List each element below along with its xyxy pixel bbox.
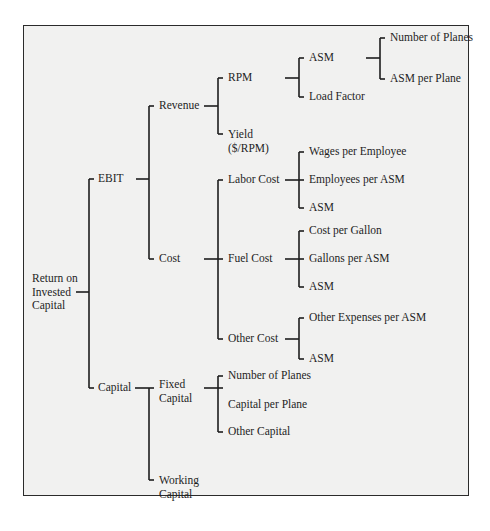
root-line-2: Invested xyxy=(32,285,78,299)
node-capital-per-plane: Capital per Plane xyxy=(228,398,307,412)
node-cost-per-gallon: Cost per Gallon xyxy=(309,224,382,238)
node-load-factor: Load Factor xyxy=(309,90,365,104)
node-number-of-planes-capital: Number of Planes xyxy=(228,369,311,383)
node-labor-cost: Labor Cost xyxy=(228,173,279,187)
node-gallons-per-asm: Gallons per ASM xyxy=(309,252,390,266)
node-revenue: Revenue xyxy=(159,99,199,113)
node-capital: Capital xyxy=(98,381,131,395)
node-return-on-invested-capital: Return on Invested Capital xyxy=(32,272,78,313)
yield-line-1: Yield xyxy=(228,128,269,142)
working-capital-line-2: Capital xyxy=(159,487,199,501)
node-asm-per-plane: ASM per Plane xyxy=(390,72,461,86)
node-asm-other: ASM xyxy=(309,352,334,366)
node-fuel-cost: Fuel Cost xyxy=(228,252,272,266)
node-asm-labor: ASM xyxy=(309,201,334,215)
node-ebit: EBIT xyxy=(98,172,124,186)
node-yield: Yield ($/RPM) xyxy=(228,128,269,155)
node-cost: Cost xyxy=(159,252,180,266)
node-number-of-planes: Number of Planes xyxy=(390,31,473,45)
node-rpm: RPM xyxy=(228,71,252,85)
yield-line-2: ($/RPM) xyxy=(228,141,269,155)
root-line-3: Capital xyxy=(32,299,78,313)
node-other-capital: Other Capital xyxy=(228,425,290,439)
root-line-1: Return on xyxy=(32,272,78,286)
fixed-capital-line-2: Capital xyxy=(159,391,192,405)
node-employees-per-asm: Employees per ASM xyxy=(309,173,405,187)
fixed-capital-line-1: Fixed xyxy=(159,378,192,392)
node-working-capital: Working Capital xyxy=(159,474,199,501)
node-fixed-capital: Fixed Capital xyxy=(159,378,192,405)
working-capital-line-1: Working xyxy=(159,474,199,488)
node-other-expenses-per-asm: Other Expenses per ASM xyxy=(309,311,426,325)
node-asm-rpm: ASM xyxy=(309,51,334,65)
node-asm-fuel: ASM xyxy=(309,280,334,294)
node-wages-per-employee: Wages per Employee xyxy=(309,145,406,159)
node-other-cost: Other Cost xyxy=(228,332,278,346)
